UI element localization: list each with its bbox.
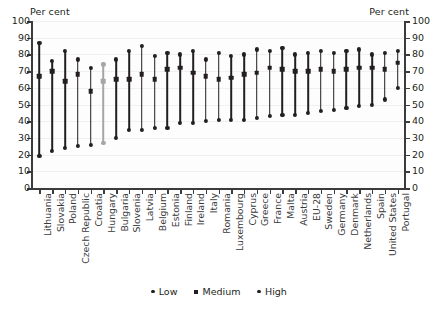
range-column: [290, 21, 301, 188]
y-tick-right: [406, 21, 410, 23]
range-stem: [205, 59, 207, 121]
x-label-estonia: Estonia: [171, 193, 180, 227]
range-column: [226, 21, 237, 188]
data-point-low: [255, 116, 259, 120]
data-point-medium: [165, 67, 170, 72]
data-point-medium: [344, 67, 349, 72]
range-column: [175, 21, 186, 188]
x-label-hungary: Hungary: [107, 193, 116, 233]
x-label-luxembourg: Luxembourg: [235, 193, 244, 251]
data-point-medium: [242, 72, 247, 77]
data-point-high: [280, 46, 284, 50]
data-point-medium: [75, 72, 80, 77]
range-column: [123, 21, 134, 188]
data-point-high: [293, 52, 297, 56]
data-point-high: [127, 49, 131, 53]
data-point-medium: [37, 74, 42, 79]
y-tick-right: [406, 105, 410, 107]
range-stem: [346, 51, 348, 108]
y-tick-label-right: 0: [412, 183, 438, 193]
data-point-low: [229, 117, 233, 121]
y-tick-right: [406, 121, 410, 123]
x-label-portugal: Portugal: [401, 193, 410, 232]
data-point-high: [37, 41, 41, 45]
range-stem: [333, 53, 335, 110]
data-point-medium: [293, 69, 298, 74]
data-point-high: [216, 51, 220, 55]
range-stem: [294, 54, 296, 114]
x-label-romania: Romania: [222, 193, 231, 234]
data-point-medium: [63, 79, 68, 84]
y-tick-right: [406, 188, 410, 190]
data-point-medium: [383, 67, 388, 72]
data-point-low: [396, 86, 400, 90]
range-column: [162, 21, 173, 188]
y-tick-right: [406, 54, 410, 56]
data-point-medium: [267, 65, 272, 70]
x-label-greece: Greece: [260, 193, 269, 226]
data-point-medium: [101, 79, 106, 84]
legend-item-high[interactable]: High: [257, 286, 286, 297]
range-column: [213, 21, 224, 188]
data-point-low: [280, 112, 284, 116]
range-column: [47, 21, 58, 188]
data-point-low: [101, 141, 105, 145]
range-stem: [282, 48, 284, 115]
data-point-low: [293, 112, 297, 116]
x-label-netherlands: Netherlands: [363, 193, 372, 250]
data-point-low: [127, 127, 131, 131]
x-label-finland: Finland: [184, 193, 193, 226]
range-stem: [307, 53, 309, 113]
y-tick-label-right: 30: [412, 133, 438, 143]
data-point-high: [191, 49, 195, 53]
range-column: [136, 21, 147, 188]
data-point-high: [370, 52, 374, 56]
range-stem: [397, 51, 399, 88]
legend-item-low[interactable]: Low: [151, 286, 177, 297]
x-label-bulgaria: Bulgaria: [120, 193, 129, 232]
data-point-high: [242, 52, 246, 56]
data-point-low: [178, 121, 182, 125]
data-point-high: [204, 57, 208, 61]
data-point-high: [165, 51, 169, 55]
data-point-high: [88, 66, 92, 70]
data-point-medium: [152, 77, 157, 82]
y-tick-right: [406, 71, 410, 73]
data-point-medium: [280, 67, 285, 72]
range-stem: [64, 51, 66, 148]
data-point-medium: [139, 72, 144, 77]
range-column: [251, 21, 262, 188]
legend-marker-high-icon: [257, 290, 261, 294]
range-stem: [243, 54, 245, 119]
data-point-low: [76, 144, 80, 148]
data-point-low: [63, 146, 67, 150]
range-stem: [230, 56, 232, 119]
data-point-medium: [229, 75, 234, 80]
chart-container: Per cent Per cent 0010102020303040405050…: [0, 0, 438, 312]
data-point-medium: [331, 69, 336, 74]
data-point-high: [306, 51, 310, 55]
data-point-medium: [357, 65, 362, 70]
data-point-high: [114, 57, 118, 61]
range-stem: [192, 51, 194, 123]
range-column: [328, 21, 339, 188]
y-tick-label-right: 40: [412, 116, 438, 126]
range-stem: [128, 51, 130, 129]
x-label-austria: Austria: [299, 193, 308, 226]
range-column: [149, 21, 160, 188]
x-label-croatia: Croatia: [94, 193, 103, 226]
legend-marker-low-icon: [151, 290, 155, 294]
range-column: [367, 21, 378, 188]
chart-legend: LowMediumHigh: [0, 286, 438, 297]
legend-item-medium[interactable]: Medium: [194, 286, 240, 297]
range-column: [277, 21, 288, 188]
y-tick-label-left: 90: [4, 33, 30, 43]
data-point-medium: [114, 77, 119, 82]
data-point-high: [332, 51, 336, 55]
data-point-low: [50, 149, 54, 153]
range-stem: [256, 49, 258, 117]
y-tick-label-left: 40: [4, 116, 30, 126]
data-point-high: [268, 49, 272, 53]
range-stem: [115, 59, 117, 137]
y-tick-right: [406, 38, 410, 40]
